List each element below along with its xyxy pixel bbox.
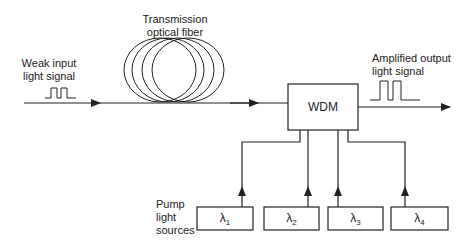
- fiber-label-line1: Transmission: [130, 13, 220, 26]
- pump-source-label-4: λ4: [391, 211, 448, 227]
- input-label: Weak input light signal: [4, 57, 94, 83]
- pump-connections: [242, 130, 405, 207]
- input-label-line1: Weak input: [4, 57, 94, 70]
- pump-label-line3: sources: [156, 224, 195, 237]
- pump-label-line1: Pump: [156, 198, 195, 211]
- output-pulse-icon: [370, 81, 420, 100]
- output-label-line2: light signal: [372, 65, 451, 78]
- output-label: Amplified output light signal: [372, 52, 451, 78]
- input-pulse-icon: [45, 88, 76, 98]
- fiber-label-line2: optical fiber: [130, 26, 220, 39]
- pump-source-label-1: λ1: [197, 211, 253, 227]
- pump-source-label-3: λ3: [328, 211, 383, 227]
- diagram-canvas: [0, 0, 472, 246]
- pump-source-label-2: λ2: [264, 211, 319, 227]
- pump-label: Pump light sources: [156, 198, 195, 237]
- fiber-coil-icon: [124, 38, 224, 102]
- wdm-label: WDM: [288, 100, 358, 114]
- input-label-line2: light signal: [4, 70, 94, 83]
- pump-arrows: [238, 186, 409, 196]
- output-label-line1: Amplified output: [372, 52, 451, 65]
- pump-label-line2: light: [156, 211, 195, 224]
- fiber-label: Transmission optical fiber: [130, 13, 220, 39]
